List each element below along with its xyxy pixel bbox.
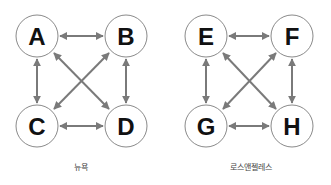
node-g: G [185, 105, 227, 147]
node-f: F [271, 15, 313, 57]
node-e-label: E [198, 23, 214, 50]
node-c-label: C [28, 113, 45, 140]
node-g-label: G [197, 113, 216, 140]
node-d: D [105, 105, 147, 147]
node-b: B [105, 15, 147, 57]
diagram-canvas: A B C D 뉴욕 E F [0, 0, 331, 185]
node-a: A [16, 15, 58, 57]
node-b-label: B [117, 23, 134, 50]
node-d-label: D [117, 113, 134, 140]
node-a-label: A [28, 23, 45, 50]
node-h: H [271, 105, 313, 147]
node-f-label: F [285, 23, 300, 50]
node-e: E [185, 15, 227, 57]
graph-new-york: A B C D 뉴욕 [16, 15, 147, 172]
graph-los-angeles: E F G H 로스앤젤레스 [185, 15, 313, 172]
caption-new-york: 뉴욕 [74, 163, 88, 172]
node-h-label: H [283, 113, 300, 140]
caption-los-angeles: 로스앤젤레스 [230, 162, 272, 172]
node-c: C [16, 105, 58, 147]
